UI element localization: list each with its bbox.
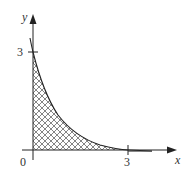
x-axis-label: x — [174, 153, 181, 167]
y-tick-label: 3 — [17, 45, 23, 59]
origin-label: 0 — [20, 155, 26, 169]
y-axis-label: y — [21, 10, 28, 24]
region-diagram: y 3 0 3 x — [0, 0, 190, 180]
x-tick-label: 3 — [124, 155, 130, 169]
y-axis-arrow-icon — [30, 14, 37, 24]
